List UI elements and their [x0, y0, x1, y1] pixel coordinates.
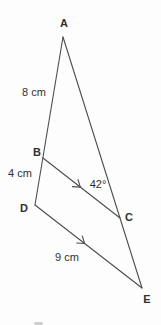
geometry-worksheet-figure: ABCDE8 cm4 cm9 cm42° — [0, 0, 161, 325]
vertex-label-C: C — [125, 211, 133, 223]
vertex-label-A: A — [60, 17, 68, 29]
angle-label: 42° — [90, 178, 107, 190]
triangle-diagram: ABCDE8 cm4 cm9 cm42° — [0, 0, 161, 325]
length-label-9-cm: 9 cm — [55, 251, 79, 263]
length-label-8-cm: 8 cm — [22, 86, 46, 98]
vertex-label-D: D — [20, 202, 28, 214]
segment-AD — [35, 37, 63, 205]
segment-BC — [43, 158, 120, 218]
vertex-label-E: E — [143, 293, 150, 305]
vertex-label-B: B — [33, 146, 41, 158]
length-label-4-cm: 4 cm — [8, 167, 32, 179]
